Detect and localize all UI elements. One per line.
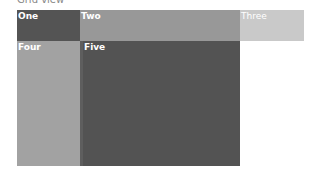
grid-cell-five: Five (80, 41, 240, 166)
caption: Grid view (17, 0, 64, 5)
cell-label: One (18, 11, 79, 22)
grid-cell-empty (240, 41, 304, 166)
cell-label: Four (18, 42, 79, 53)
grid-cell-one: One (17, 10, 80, 41)
grid-cell-three: Three (240, 10, 304, 41)
grid-cell-two: Two (80, 10, 240, 41)
cell-label: Three (241, 11, 303, 22)
cell-label: Five (84, 42, 239, 53)
grid-layout: One Two Three Four Five (17, 10, 304, 166)
cell-label: Two (81, 11, 239, 22)
grid-cell-four: Four (17, 41, 80, 166)
